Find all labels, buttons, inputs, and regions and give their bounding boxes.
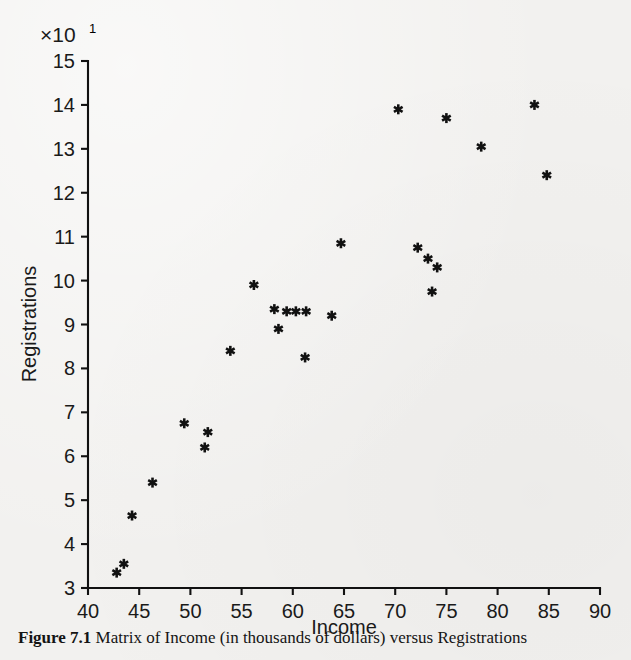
- y-axis-multiplier-base: ×10: [40, 23, 76, 46]
- data-point-marker: [302, 306, 311, 316]
- data-point-marker: [292, 306, 301, 316]
- data-point-marker: [337, 238, 346, 248]
- x-tick-label: 55: [230, 600, 252, 622]
- data-point-marker: [128, 511, 137, 521]
- x-tick-label: 60: [282, 600, 304, 622]
- data-point-marker: [148, 478, 157, 488]
- data-point-marker: [530, 100, 539, 110]
- y-axis-multiplier: ×10 1: [40, 21, 96, 46]
- y-tick-label: 4: [64, 533, 75, 555]
- y-tick-label: 5: [64, 489, 75, 511]
- x-tick-label: 75: [435, 600, 457, 622]
- x-tick-label: 50: [179, 600, 201, 622]
- y-tick-label: 15: [53, 50, 75, 72]
- data-point-marker: [477, 142, 486, 152]
- y-tick-label: 11: [54, 226, 75, 248]
- data-point-layer: [112, 100, 551, 578]
- x-tick-label: 90: [589, 600, 611, 622]
- figure-caption-text: Matrix of Income (in thousands of dollar…: [96, 628, 528, 647]
- x-tick-label: 85: [538, 600, 560, 622]
- data-point-marker: [428, 287, 437, 297]
- data-point-marker: [200, 442, 209, 452]
- data-point-marker: [413, 243, 422, 253]
- data-point-marker: [112, 568, 121, 578]
- y-tick-label: 3: [64, 577, 75, 599]
- x-tick-label: 45: [128, 600, 150, 622]
- data-point-marker: [327, 311, 336, 321]
- data-point-marker: [226, 346, 235, 356]
- data-point-marker: [120, 559, 129, 569]
- x-tick-label: 80: [486, 600, 508, 622]
- y-tick-label: 13: [53, 138, 75, 160]
- data-point-marker: [442, 113, 451, 123]
- data-point-marker: [282, 306, 291, 316]
- y-axis-ticks: 3456789101112131415: [53, 50, 88, 599]
- data-point-marker: [433, 262, 442, 272]
- y-tick-label: 7: [64, 401, 75, 423]
- y-tick-label: 8: [64, 357, 75, 379]
- y-axis-multiplier-exponent: 1: [89, 21, 96, 36]
- data-point-marker: [250, 280, 259, 290]
- data-point-marker: [180, 418, 189, 428]
- data-point-marker: [542, 170, 551, 180]
- x-tick-label: 40: [77, 600, 99, 622]
- y-tick-label: 9: [64, 314, 75, 336]
- y-axis-title: Registrations: [18, 266, 40, 383]
- figure-caption-label: Figure 7.1: [18, 628, 91, 647]
- figure-page: ×10 1 3456789101112131415 40455055606570…: [0, 0, 631, 660]
- x-tick-label: 70: [384, 600, 406, 622]
- data-point-marker: [301, 352, 310, 362]
- data-point-marker: [203, 427, 212, 437]
- scatter-plot-svg: ×10 1 3456789101112131415 40455055606570…: [0, 0, 631, 660]
- y-tick-label: 10: [53, 270, 75, 292]
- y-tick-label: 6: [64, 445, 75, 467]
- y-tick-label: 12: [53, 182, 75, 204]
- data-point-marker: [424, 254, 433, 264]
- figure-caption: Figure 7.1 Matrix of Income (in thousand…: [18, 628, 618, 648]
- scatter-figure: ×10 1 3456789101112131415 40455055606570…: [0, 0, 631, 660]
- y-tick-label: 14: [53, 94, 75, 116]
- data-point-marker: [274, 324, 283, 334]
- data-point-marker: [394, 104, 403, 114]
- data-point-marker: [270, 304, 279, 314]
